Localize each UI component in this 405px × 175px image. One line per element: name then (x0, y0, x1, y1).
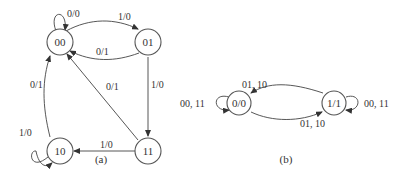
edge-1-self (346, 96, 358, 110)
state-1-1-label: 1/1 (327, 97, 341, 109)
edge-10-to-00 (44, 56, 50, 137)
label-0-to-1: 01, 10 (300, 118, 325, 129)
diagram-b: 0/0 1/1 00, 11 01, 10 01, 10 00, 11 (b) (180, 79, 389, 166)
label-11-to-10: 1/0 (100, 139, 113, 150)
state-01-label: 01 (143, 36, 154, 48)
caption-a: (a) (95, 153, 108, 166)
state-0-0-label: 0/0 (232, 97, 247, 109)
label-01-to-11: 1/0 (151, 79, 164, 90)
state-00-label: 00 (55, 36, 67, 48)
state-10-label: 10 (55, 145, 67, 157)
edge-00-to-01 (66, 21, 138, 31)
label-0-self: 00, 11 (180, 98, 205, 109)
label-1-to-0: 01, 10 (242, 79, 267, 90)
label-01-to-00: 0/1 (96, 46, 109, 57)
edge-11-to-00 (67, 54, 138, 140)
diagram-a: 00 01 10 11 0/0 1/0 0/1 1/0 0/1 1/0 0/1 … (19, 8, 164, 166)
label-00-to-01: 1/0 (118, 11, 131, 22)
label-00-self: 0/0 (67, 8, 80, 19)
label-10-to-00: 0/1 (30, 79, 43, 90)
label-1-self: 00, 11 (364, 98, 389, 109)
caption-b: (b) (280, 153, 293, 166)
label-10-self: 1/0 (19, 127, 32, 138)
state-11-label: 11 (143, 145, 154, 157)
state-diagrams: 00 01 10 11 0/0 1/0 0/1 1/0 0/1 1/0 0/1 … (0, 0, 405, 175)
label-11-to-00: 0/1 (106, 81, 119, 92)
